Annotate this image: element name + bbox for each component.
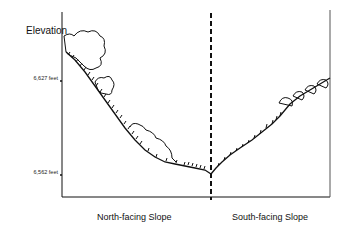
tick-label-low: 6,562 feet bbox=[18, 169, 58, 175]
y-axis-title: Elevation bbox=[26, 25, 67, 36]
tick-label-high: 6,627 feet bbox=[18, 75, 58, 81]
south-slope-label: South-facing Slope bbox=[232, 212, 308, 222]
south-slope-ground bbox=[211, 78, 330, 174]
north-tree-canopy-1 bbox=[64, 31, 105, 70]
north-slope-label: North-facing Slope bbox=[97, 212, 172, 222]
north-slope-ground bbox=[66, 52, 211, 174]
north-tree-canopy-2 bbox=[95, 76, 114, 94]
